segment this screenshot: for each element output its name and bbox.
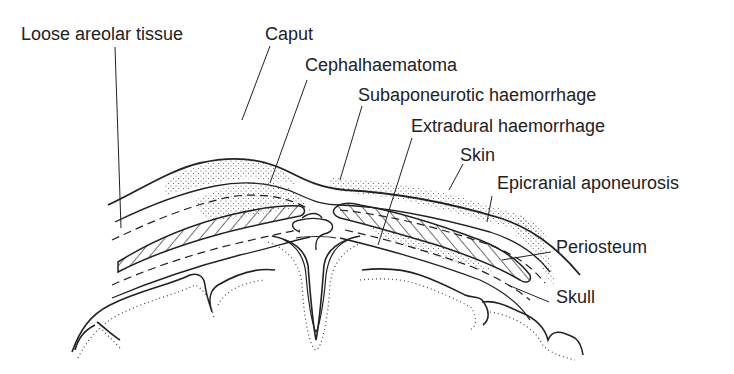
label-caput: Caput [265,25,313,43]
label-skull: Skull [556,288,595,306]
falx [293,214,333,251]
leader-skin [449,164,463,190]
label-epicranial-aponeurosis: Epicranial aponeurosis [497,174,679,192]
label-subaponeurotic-haemorrhage: Subaponeurotic haemorrhage [358,86,596,104]
pia-right [360,279,575,360]
leader-subaponeurotic [340,106,362,180]
label-loose-areolar-tissue: Loose areolar tissue [21,25,183,43]
pia-left [78,280,265,358]
leader-cephalhaematoma [270,80,307,183]
label-cephalhaematoma: Cephalhaematoma [305,56,457,74]
brain-surface-left [72,270,275,352]
label-extradural-haemorrhage: Extradural haemorrhage [411,117,605,135]
label-periosteum: Periosteum [556,238,647,256]
brain-surface-right [362,269,583,355]
leader-caput [242,46,270,120]
label-skin: Skin [460,146,495,164]
